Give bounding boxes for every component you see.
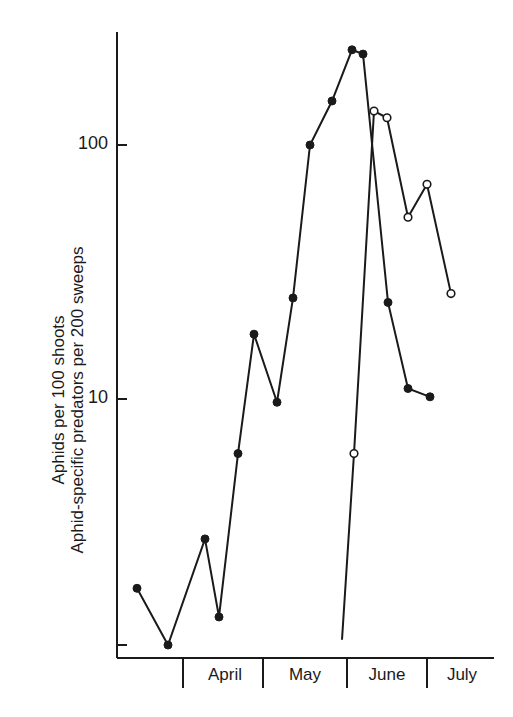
aphids-line xyxy=(137,50,430,645)
aphid-data-point xyxy=(404,384,412,392)
aphid-data-point xyxy=(133,584,141,592)
y-axis-label-line1: Aphids per 100 shoots xyxy=(49,246,68,553)
series-layer xyxy=(133,46,455,649)
predator-data-point xyxy=(383,114,391,122)
predator-data-point xyxy=(404,213,412,221)
aphid-data-point xyxy=(289,294,297,302)
month-label-may: May xyxy=(265,665,345,685)
predators-line xyxy=(342,111,451,640)
aphid-data-point xyxy=(426,393,434,401)
aphid-data-point xyxy=(273,398,281,406)
aphid-data-point xyxy=(250,330,258,338)
month-label-april: April xyxy=(185,665,265,685)
predator-data-point xyxy=(350,450,358,458)
aphid-data-point xyxy=(306,141,314,149)
aphid-data-point xyxy=(215,613,223,621)
predator-data-point xyxy=(370,107,378,115)
predator-data-point xyxy=(447,290,455,298)
y-axis-label-line2: Aphid-specific predators per 200 sweeps xyxy=(68,246,87,553)
y-tick-label-100: 100 xyxy=(48,133,108,154)
month-label-july: July xyxy=(422,665,502,685)
aphid-data-point xyxy=(359,50,367,58)
aphid-data-point xyxy=(234,450,242,458)
predator-data-point xyxy=(423,181,431,189)
aphid-data-point xyxy=(201,535,209,543)
aphid-data-point xyxy=(384,298,392,306)
aphid-data-point xyxy=(348,46,356,54)
month-label-june: June xyxy=(347,665,427,685)
aphid-data-point xyxy=(328,97,336,105)
aphid-data-point xyxy=(164,641,172,649)
